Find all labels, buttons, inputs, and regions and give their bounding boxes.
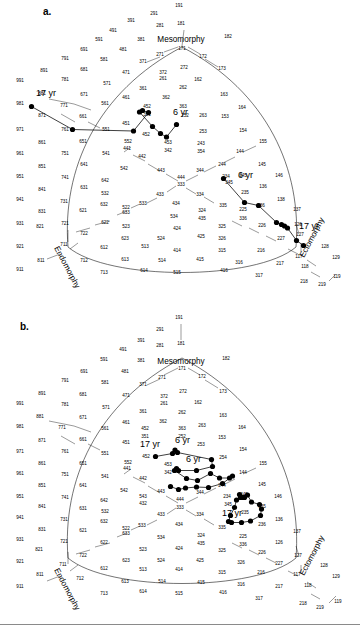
data-point xyxy=(70,127,75,132)
grid-number: 262 xyxy=(178,410,186,415)
grid-number: 471 xyxy=(122,70,130,75)
grid-number: 491 xyxy=(119,347,127,352)
grid-number: 821 xyxy=(36,224,44,229)
grid-number: 129 xyxy=(332,255,340,260)
grid-number: 771 xyxy=(60,103,68,108)
grid-number: 621 xyxy=(79,528,87,533)
grid-number: 524 xyxy=(157,558,165,563)
data-point xyxy=(176,487,181,492)
data-point xyxy=(249,499,254,504)
grid-number: 532 xyxy=(101,509,109,514)
grid-number: 561 xyxy=(101,426,109,431)
grid-number: 136 xyxy=(275,517,283,522)
grid-number: 961 xyxy=(16,471,24,476)
grid-number: 461 xyxy=(122,95,130,100)
data-point xyxy=(257,502,262,507)
grid-number: 216 xyxy=(257,570,265,575)
grid-number: 671 xyxy=(79,415,87,420)
data-point xyxy=(208,471,213,476)
grid-number: 622 xyxy=(100,540,108,545)
grid-number: 591 xyxy=(95,37,103,42)
grid-number: 315 xyxy=(218,248,226,253)
age-annotation: 6 yr xyxy=(173,107,188,117)
grid-number: 155 xyxy=(259,461,267,466)
grid-number: 225 xyxy=(239,534,247,539)
grid-spoke xyxy=(188,47,200,54)
grid-number: 451 xyxy=(122,121,130,126)
grid-number: 414 xyxy=(175,567,183,572)
grid-number: 145 xyxy=(258,162,266,167)
grid-number: 227 xyxy=(277,236,285,241)
grid-number: 633 xyxy=(122,210,130,215)
grid-number: 163 xyxy=(220,92,228,97)
grid-number: 661 xyxy=(79,114,87,119)
grid-number: 441 xyxy=(123,466,131,471)
grid-spoke xyxy=(204,197,214,203)
grid-number: 272 xyxy=(180,65,188,70)
grid-number: 691 xyxy=(80,369,88,374)
grid-number: 523 xyxy=(139,547,147,552)
grid-number: 452 xyxy=(141,426,149,431)
grid-number: 226 xyxy=(258,223,266,228)
grid-number: 361 xyxy=(139,86,147,91)
grid-number: 324 xyxy=(198,208,206,213)
grid-number: 333 xyxy=(176,505,184,510)
grid-number: 153 xyxy=(221,114,229,119)
axis-label-ectomorphy: Ectomorphy xyxy=(298,533,327,577)
grid-number: 316 xyxy=(237,582,245,587)
grid-number: 345 xyxy=(225,180,233,185)
grid-number: 761 xyxy=(61,449,69,454)
grid-number: 691 xyxy=(80,47,88,52)
data-point xyxy=(194,468,199,473)
grid-number: 416 xyxy=(220,268,228,273)
grid-number: 146 xyxy=(275,173,283,178)
grid-number: 551 xyxy=(101,451,109,456)
grid-number: 871 xyxy=(38,438,46,443)
data-point xyxy=(195,478,200,483)
grid-number: 219 xyxy=(316,605,324,610)
grid-number: 216 xyxy=(257,248,265,253)
grid-number: 173 xyxy=(219,389,227,394)
grid-number: 163 xyxy=(219,413,227,418)
grid-number: 244 xyxy=(218,162,226,167)
data-point xyxy=(183,485,188,490)
grid-spoke xyxy=(204,519,214,525)
grid-number: 681 xyxy=(80,67,88,72)
grid-number: 661 xyxy=(79,437,87,442)
grid-number: 435 xyxy=(197,541,205,546)
grid-number: 981 xyxy=(16,424,24,429)
grid-number: 713 xyxy=(100,591,108,596)
data-point xyxy=(137,109,142,114)
grid-number: 442 xyxy=(139,476,147,481)
grid-number: 127 xyxy=(294,553,302,558)
data-point xyxy=(206,485,211,490)
data-point xyxy=(226,519,231,524)
grid-number: 155 xyxy=(259,139,267,144)
grid-number: 271 xyxy=(158,375,166,380)
data-point xyxy=(274,220,279,225)
grid-number: 372 xyxy=(160,394,168,399)
data-point xyxy=(174,122,179,127)
data-point xyxy=(301,243,306,248)
age-annotation: 17 yr xyxy=(299,221,319,231)
data-point xyxy=(258,513,263,518)
grid-number: 182 xyxy=(224,34,232,39)
grid-number: 821 xyxy=(35,547,43,552)
grid-number: 623 xyxy=(121,236,129,241)
grid-number: 324 xyxy=(197,533,205,538)
grid-spoke xyxy=(243,146,256,152)
grid-number: 971 xyxy=(16,449,24,454)
grid-spoke xyxy=(70,243,78,249)
grid-number: 219 xyxy=(318,282,326,287)
grid-number: 581 xyxy=(100,57,108,62)
data-track-track-left xyxy=(32,107,177,138)
grid-number: 153 xyxy=(218,435,226,440)
data-point xyxy=(194,484,199,489)
grid-number: 315 xyxy=(218,570,226,575)
grid-number: 534 xyxy=(170,214,178,219)
grid-number: 236 xyxy=(258,522,266,527)
grid-number: 461 xyxy=(122,420,130,425)
grid-number: 227 xyxy=(275,561,283,566)
grid-number: 731 xyxy=(60,199,68,204)
data-point xyxy=(259,506,264,511)
